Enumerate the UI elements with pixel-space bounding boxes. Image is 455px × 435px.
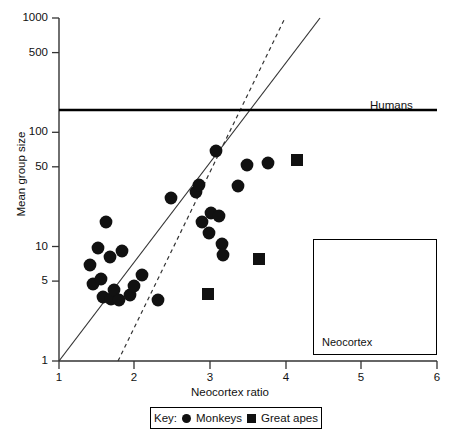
y-tick-label-500: 500 [6,47,48,59]
data-point-monkey [217,249,230,262]
y-tick-label-5: 5 [6,275,48,287]
x-axis-title: Neocortex ratio [120,386,340,398]
x-tick-label-6: 6 [425,372,449,384]
legend-monkeys-label: Monkeys [196,412,242,424]
data-point-great-ape [253,253,265,265]
data-point-monkey [193,179,206,192]
x-tick-label-3: 3 [198,372,222,384]
data-point-monkey [113,294,126,307]
plot-canvas [0,0,455,435]
data-point-monkey [210,145,223,158]
x-tick-label-1: 1 [47,372,71,384]
monkey-data-points [84,145,275,307]
x-tick-label-2: 2 [122,372,146,384]
data-point-monkey [165,192,178,205]
legend-monkey-circle-icon [182,414,191,423]
monkey-regression-line [59,18,320,361]
data-point-monkey [116,245,129,258]
y-tick-label-10: 10 [6,241,48,253]
x-tick-label-4: 4 [274,372,298,384]
legend-box: Key: Monkeys Great apes [150,407,322,429]
data-point-monkey [92,242,105,255]
inset-neocortex-label: Neocortex [322,336,372,348]
inset-brain-panel: Neocortex [313,239,437,355]
data-point-monkey [213,210,226,223]
data-point-great-ape [291,154,303,166]
y-axis-ticks [52,18,59,361]
legend-key-label: Key: [154,412,177,424]
data-point-monkey [216,238,229,251]
data-point-monkey [241,159,254,172]
great-ape-data-points [202,154,303,300]
data-point-great-ape [202,288,214,300]
data-point-monkey [232,180,245,193]
data-point-monkey [203,227,216,240]
data-point-monkey [95,273,108,286]
y-axis-title: Mean group size [15,109,27,239]
y-tick-label-50: 50 [6,161,48,173]
humans-annotation-label: Humans [370,99,413,111]
y-tick-label-1000: 1000 [6,12,48,24]
data-point-monkey [100,216,113,229]
legend-great-ape-square-icon [247,414,256,423]
figure-scatter-plot: 1000 500 100 50 10 5 1 1 2 3 4 5 6 Neoco… [0,0,455,435]
data-point-monkey [128,280,141,293]
data-point-monkey [152,294,165,307]
y-tick-label-1: 1 [6,355,48,367]
data-point-monkey [136,269,149,282]
legend-great-apes-label: Great apes [261,412,318,424]
x-tick-label-5: 5 [349,372,373,384]
data-point-monkey [104,251,117,264]
data-point-monkey [262,157,275,170]
y-tick-label-100: 100 [6,126,48,138]
data-point-monkey [84,259,97,272]
x-axis-ticks [59,361,437,369]
